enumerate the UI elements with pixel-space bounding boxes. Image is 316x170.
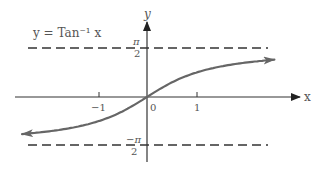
x-axis-label: x (304, 90, 311, 104)
chart-title: y = Tan⁻¹ x (32, 26, 101, 40)
x-tick-label-0: 0 (150, 102, 156, 113)
arctan-graph: y = Tan⁻¹ x x y −1 0 1 π 2 −π 2 (0, 0, 316, 170)
y-tick-pi-half-den: 2 (134, 48, 140, 59)
x-tick-label-neg1: −1 (91, 102, 106, 113)
y-axis-label: y (143, 7, 151, 21)
y-tick-pi-half-num: π (132, 36, 140, 47)
y-tick-neg-pi-half-den: 2 (131, 146, 137, 157)
y-tick-neg-pi-half-num: −π (126, 134, 141, 145)
x-tick-label-1: 1 (194, 102, 200, 113)
